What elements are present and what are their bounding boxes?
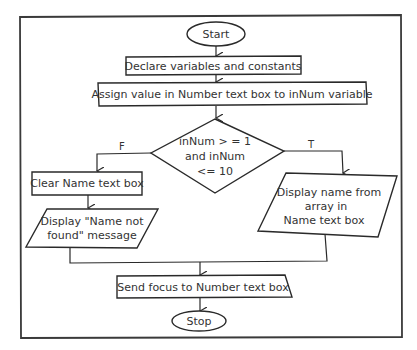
- declare-label: Declare variables and constants: [125, 60, 302, 73]
- display-name-line-2: array in: [305, 200, 347, 213]
- flowchart-canvas: Start Declare variables and constants As…: [0, 0, 417, 350]
- display-not-found-io: Display "Name not found" message: [26, 209, 158, 248]
- display-not-found-line-2: found" message: [47, 229, 137, 242]
- false-branch-label: F: [119, 141, 125, 152]
- clear-name-label: Clear Name text box: [30, 177, 144, 190]
- assign-process-box: Assign value in Number text box to inNum…: [91, 82, 372, 106]
- true-branch-label: T: [307, 139, 315, 150]
- false-branch-connector: [97, 153, 151, 171]
- send-focus-process-box: Send focus to Number text box: [117, 275, 292, 298]
- stop-terminal: Stop: [172, 311, 226, 331]
- start-terminal: Start: [187, 22, 245, 46]
- display-not-found-line-1: Display "Name not: [40, 215, 144, 228]
- decision-line-1: inNum > = 1: [179, 135, 251, 148]
- display-name-io: Display name from array in Name text box: [258, 173, 397, 237]
- assign-label: Assign value in Number text box to inNum…: [91, 88, 372, 101]
- start-label: Start: [203, 28, 231, 41]
- decision-diamond: inNum > = 1 and inNum <= 10: [151, 119, 284, 193]
- clear-name-process-box: Clear Name text box: [30, 172, 144, 195]
- true-branch-connector: [284, 151, 343, 173]
- decision-line-3: <= 10: [197, 165, 233, 178]
- display-name-line-1: Display name from: [277, 186, 381, 199]
- decision-line-2: and inNum: [185, 150, 245, 163]
- send-focus-label: Send focus to Number text box: [117, 281, 289, 294]
- display-name-line-3: Name text box: [283, 214, 365, 227]
- stop-label: Stop: [186, 315, 211, 328]
- declare-process-box: Declare variables and constants: [125, 56, 302, 75]
